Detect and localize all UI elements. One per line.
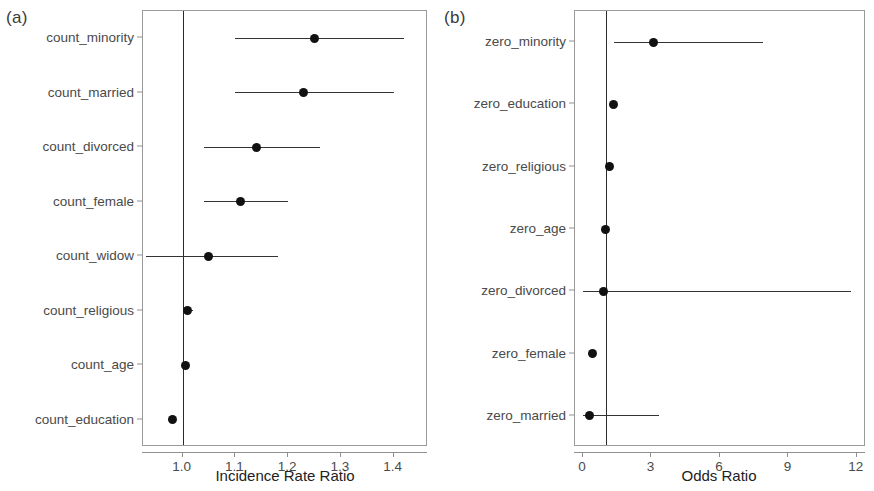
y-axis-tick	[137, 37, 142, 38]
x-axis-tick-label: 3	[647, 459, 655, 474]
estimate-point	[585, 411, 594, 420]
y-axis-label: zero_married	[440, 407, 566, 422]
y-axis-label: count_widow	[0, 248, 134, 263]
estimate-point	[649, 38, 658, 47]
x-axis-tick-label: 12	[848, 459, 863, 474]
confidence-interval-line	[583, 291, 851, 292]
estimate-point	[605, 162, 614, 171]
panel-a-label: (a)	[6, 8, 28, 28]
estimate-point	[181, 361, 190, 370]
y-axis-label: count_education	[0, 411, 134, 426]
estimate-point	[204, 252, 213, 261]
y-axis-tick	[137, 418, 142, 419]
confidence-interval-line	[235, 38, 404, 39]
panel-a-plot-area	[142, 10, 427, 446]
panel-a-x-axis-title: Incidence Rate Ratio	[215, 467, 354, 484]
y-axis-tick	[569, 228, 574, 229]
y-axis-tick	[569, 165, 574, 166]
y-axis-tick	[137, 200, 142, 201]
estimate-point	[252, 143, 261, 152]
x-axis-tick-label: 0	[578, 459, 586, 474]
y-axis-tick	[569, 103, 574, 104]
panel-a-reference-line	[183, 11, 184, 445]
y-axis-tick	[569, 41, 574, 42]
confidence-interval-line	[204, 201, 288, 202]
estimate-point	[299, 88, 308, 97]
y-axis-tick	[137, 255, 142, 256]
panel-a: (a) count_minoritycount_marriedcount_div…	[0, 0, 440, 491]
estimate-point	[609, 100, 618, 109]
y-axis-label: count_age	[0, 357, 134, 372]
y-axis-label: count_divorced	[0, 139, 134, 154]
y-axis-tick	[137, 309, 142, 310]
y-axis-tick	[569, 290, 574, 291]
estimate-point	[588, 349, 597, 358]
y-axis-label: zero_religious	[440, 158, 566, 173]
estimate-point	[168, 415, 177, 424]
panel-b-x-axis-title: Odds Ratio	[681, 467, 756, 484]
x-axis-tick	[287, 452, 288, 457]
y-axis-tick	[137, 91, 142, 92]
y-axis-label: zero_female	[440, 345, 566, 360]
x-axis-tick	[787, 452, 788, 457]
y-axis-tick	[137, 146, 142, 147]
x-axis-tick	[393, 452, 394, 457]
y-axis-label: zero_age	[440, 221, 566, 236]
x-axis-line	[142, 452, 427, 453]
confidence-interval-line	[583, 415, 659, 416]
y-axis-label: count_female	[0, 193, 134, 208]
estimate-point	[183, 306, 192, 315]
y-axis-tick	[137, 364, 142, 365]
x-axis-tick	[340, 452, 341, 457]
x-axis-tick	[182, 452, 183, 457]
forest-plot-figure: (a) count_minoritycount_marriedcount_div…	[0, 0, 874, 491]
x-axis-tick-label: 1.0	[172, 459, 191, 474]
y-axis-label: zero_minority	[440, 34, 566, 49]
estimate-point	[601, 225, 610, 234]
x-axis-tick	[719, 452, 720, 457]
x-axis-tick	[582, 452, 583, 457]
x-axis-tick-label: 9	[784, 459, 792, 474]
panel-b-plot-area	[574, 10, 865, 446]
y-axis-label: zero_education	[440, 96, 566, 111]
x-axis-tick	[856, 452, 857, 457]
panel-b: (b) zero_minorityzero_educationzero_reli…	[440, 0, 874, 491]
panel-b-label: (b)	[444, 8, 466, 28]
x-axis-tick	[650, 452, 651, 457]
confidence-interval-line	[235, 92, 393, 93]
confidence-interval-line	[204, 147, 320, 148]
confidence-interval-line	[614, 42, 763, 43]
y-axis-tick	[569, 352, 574, 353]
estimate-point	[236, 197, 245, 206]
estimate-point	[599, 287, 608, 296]
x-axis-tick-label: 1.4	[383, 459, 402, 474]
y-axis-tick	[569, 414, 574, 415]
y-axis-label: count_married	[0, 84, 134, 99]
y-axis-label: count_religious	[0, 302, 134, 317]
y-axis-label: count_minority	[0, 30, 134, 45]
y-axis-label: zero_divorced	[440, 283, 566, 298]
x-axis-tick	[234, 452, 235, 457]
estimate-point	[310, 34, 319, 43]
